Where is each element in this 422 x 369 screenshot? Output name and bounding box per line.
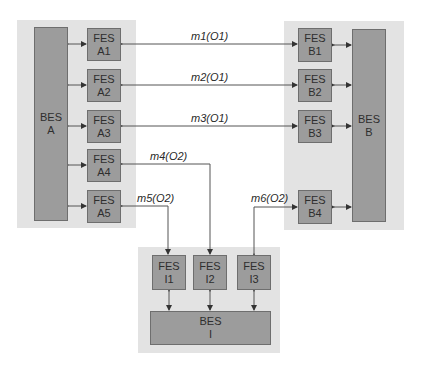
fes-i1-label-1: FES xyxy=(158,260,179,273)
bes-i-label-2: I xyxy=(209,328,212,341)
message-label-m4: m4(O2) xyxy=(150,150,187,162)
message-label-m6: m6(O2) xyxy=(251,192,288,204)
fes-i1-label-2: I1 xyxy=(164,273,173,286)
fes-a1-label-2: A1 xyxy=(97,45,110,58)
fes-b4-label-1: FES xyxy=(304,194,325,207)
bes-b-label-1: BES xyxy=(358,113,380,126)
fes-i3-label-1: FES xyxy=(243,260,264,273)
fes-a3-label-2: A3 xyxy=(97,127,110,140)
fes-i2: FES I2 xyxy=(193,255,227,290)
fes-i1: FES I1 xyxy=(152,255,186,290)
fes-b4-label-2: B4 xyxy=(308,207,321,220)
message-label-m3: m3(O1) xyxy=(191,112,228,124)
fes-a2-label-2: A2 xyxy=(97,86,110,99)
bes-i: BES I xyxy=(150,311,271,345)
fes-a4-label-1: FES xyxy=(93,153,114,166)
fes-a2: FES A2 xyxy=(87,69,121,102)
fes-b2-label-1: FES xyxy=(304,73,325,86)
fes-b3: FES B3 xyxy=(298,110,332,143)
bes-a: BES A xyxy=(34,27,68,221)
fes-b4: FES B4 xyxy=(298,190,332,224)
bes-b-label-2: B xyxy=(365,126,372,139)
fes-i3: FES I3 xyxy=(237,255,271,290)
bes-i-label-1: BES xyxy=(199,315,221,328)
fes-a5: FES A5 xyxy=(87,190,121,223)
message-label-m1: m1(O1) xyxy=(191,30,228,42)
fes-b2-label-2: B2 xyxy=(308,86,321,99)
fes-a5-label-1: FES xyxy=(93,194,114,207)
message-label-m5: m5(O2) xyxy=(137,192,174,204)
fes-i2-label-1: FES xyxy=(199,260,220,273)
fes-a4: FES A4 xyxy=(87,149,121,182)
fes-i3-label-2: I3 xyxy=(249,273,258,286)
fes-a1: FES A1 xyxy=(87,28,121,61)
fes-b3-label-2: B3 xyxy=(308,127,321,140)
fes-a1-label-1: FES xyxy=(93,32,114,45)
fes-b1: FES B1 xyxy=(298,28,332,62)
fes-b1-label-2: B1 xyxy=(308,45,321,58)
fes-b2: FES B2 xyxy=(298,69,332,102)
fes-a2-label-1: FES xyxy=(93,73,114,86)
fes-a3: FES A3 xyxy=(87,110,121,143)
fes-b1-label-1: FES xyxy=(304,32,325,45)
fes-i2-label-2: I2 xyxy=(205,273,214,286)
fes-a3-label-1: FES xyxy=(93,114,114,127)
fes-b3-label-1: FES xyxy=(304,114,325,127)
fes-a5-label-2: A5 xyxy=(97,207,110,220)
message-label-m2: m2(O1) xyxy=(191,71,228,83)
bes-a-label-1: BES xyxy=(40,111,62,124)
fes-a4-label-2: A4 xyxy=(97,166,110,179)
bes-b: BES B xyxy=(352,29,386,222)
bes-a-label-2: A xyxy=(47,124,54,137)
